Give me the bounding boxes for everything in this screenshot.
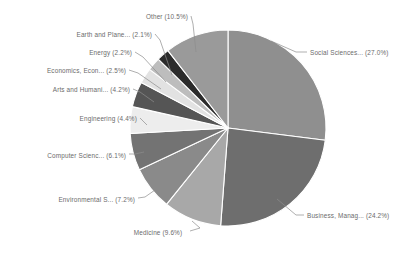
pie-slices-group	[130, 30, 326, 226]
pie-slice-label: Business, Manag... (24.2%)	[307, 212, 389, 220]
pie-chart-svg: Social Sciences... (27.0%)Business, Mana…	[0, 0, 420, 256]
pie-slice-label: Earth and Plane... (2.1%)	[76, 31, 152, 39]
leader-line	[190, 221, 200, 231]
pie-slice-label: Energy (2.2%)	[89, 49, 132, 57]
pie-slice[interactable]	[228, 30, 326, 140]
pie-slice-label: Computer Scienc... (6.1%)	[47, 152, 126, 160]
pie-chart-container: Social Sciences... (27.0%)Business, Mana…	[0, 0, 420, 256]
pie-slice-label: Medicine (9.6%)	[134, 229, 182, 237]
pie-slice-label: Engineering (4.4%)	[80, 115, 137, 123]
pie-slice-label: Environmental S... (7.2%)	[58, 196, 135, 204]
pie-slice-label: Arts and Humani... (4.2%)	[53, 86, 130, 94]
pie-slice-label: Social Sciences... (27.0%)	[310, 49, 389, 57]
pie-slice-label: Other (10.5%)	[146, 13, 188, 21]
pie-slice-label: Economics, Econ... (2.5%)	[47, 67, 126, 75]
